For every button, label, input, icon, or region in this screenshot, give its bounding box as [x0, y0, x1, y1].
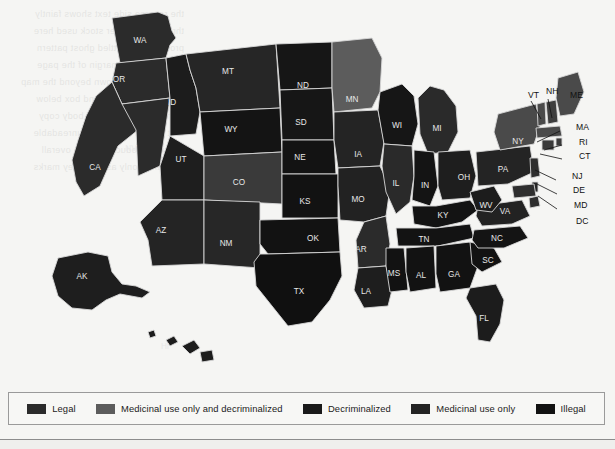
state-ar[interactable] [356, 216, 390, 268]
state-hi[interactable] [148, 330, 214, 362]
legend-swatch-decrim [303, 404, 322, 414]
page-root: the reverse side text shows faintly thro… [0, 0, 615, 449]
state-label-hi: HI [161, 342, 169, 351]
legend-item-illegal[interactable]: Illegal [536, 403, 586, 414]
state-label-wa: WA [134, 36, 147, 45]
state-label-wy: WY [224, 125, 238, 134]
state-ri[interactable] [556, 138, 562, 146]
state-label-id: ID [168, 98, 176, 107]
map-legend: LegalMedicinal use only and decriminaliz… [8, 392, 605, 425]
state-al[interactable] [406, 246, 436, 292]
state-ia[interactable] [334, 110, 384, 168]
state-label-vt: VT [528, 90, 540, 100]
state-wy[interactable] [200, 108, 282, 156]
state-label-nd: ND [297, 81, 309, 90]
state-label-dc: DC [576, 216, 588, 226]
state-label-mn: MN [346, 95, 359, 104]
state-label-ms: MS [388, 269, 401, 278]
legend-label-illegal: Illegal [561, 403, 586, 414]
state-label-md: MD [574, 200, 587, 210]
state-label-mo: MO [351, 195, 364, 204]
state-sd[interactable] [280, 88, 334, 140]
state-in[interactable] [412, 150, 438, 206]
state-label-de: DE [573, 185, 585, 195]
state-la[interactable] [354, 266, 392, 308]
state-label-nm: NM [220, 239, 233, 248]
state-label-az: AZ [156, 226, 166, 235]
state-label-wv: WV [479, 201, 493, 210]
state-label-nc: NC [491, 234, 503, 243]
state-label-il: IL [393, 179, 400, 188]
state-label-tx: TX [294, 287, 305, 296]
state-label-ri: RI [579, 137, 588, 147]
state-label-oh: OH [458, 173, 470, 182]
state-label-fl: FL [479, 314, 489, 323]
state-nm[interactable] [204, 200, 260, 268]
state-label-wi: WI [392, 121, 402, 130]
state-label-la: LA [361, 287, 372, 296]
legend-item-decrim[interactable]: Decriminalized [303, 403, 391, 414]
us-map[interactable]: WAORCANVIDMTWYUTCOAZNMNDSDNEKSOKTXMNIAMO… [0, 0, 615, 388]
state-label-sc: SC [482, 256, 493, 265]
state-label-ny: NY [512, 137, 524, 146]
state-label-ca: CA [89, 163, 101, 172]
state-label-nj: NJ [572, 171, 583, 181]
legend-label-legal: Legal [52, 403, 75, 414]
state-nh[interactable] [546, 100, 558, 124]
state-label-nh: NH [546, 86, 558, 96]
state-md[interactable] [512, 184, 536, 198]
legend-swatch-med_only [411, 404, 430, 414]
state-label-ut: UT [176, 155, 187, 164]
state-ok[interactable] [260, 218, 340, 254]
state-label-al: AL [416, 271, 426, 280]
state-mt[interactable] [186, 44, 280, 112]
state-label-ia: IA [354, 150, 362, 159]
state-ne[interactable] [282, 140, 336, 174]
state-label-mi: MI [432, 124, 441, 133]
legend-item-med_only[interactable]: Medicinal use only [411, 403, 515, 414]
state-label-ks: KS [300, 197, 311, 206]
state-label-co: CO [233, 178, 245, 187]
legend-item-med_decrim[interactable]: Medicinal use only and decriminalized [96, 403, 283, 414]
state-label-sd: SD [295, 118, 306, 127]
legend-swatch-legal [27, 404, 46, 414]
state-ut[interactable] [160, 136, 204, 200]
state-mo[interactable] [338, 166, 390, 222]
state-ak[interactable] [52, 252, 150, 310]
legend-label-decrim: Decriminalized [328, 403, 391, 414]
state-label-ky: KY [438, 211, 449, 220]
state-label-in: IN [421, 181, 429, 190]
footer-band [0, 440, 615, 449]
legend-label-med_decrim: Medicinal use only and decriminalized [121, 403, 283, 414]
state-label-nv: NV [125, 144, 137, 153]
state-label-ar: AR [355, 245, 366, 254]
state-label-ok: OK [307, 234, 319, 243]
state-dc[interactable] [529, 196, 540, 208]
state-label-or: OR [113, 75, 125, 84]
state-ks[interactable] [282, 174, 338, 218]
state-wi[interactable] [378, 84, 418, 146]
state-label-me: ME [570, 90, 583, 100]
state-fl[interactable] [466, 284, 504, 342]
state-label-ak: AK [77, 272, 88, 281]
state-label-ne: NE [294, 153, 306, 162]
state-label-tn: TN [419, 235, 430, 244]
state-label-va: VA [500, 207, 511, 216]
legend-item-legal[interactable]: Legal [27, 403, 75, 414]
state-mi[interactable] [418, 86, 458, 154]
state-nj[interactable] [530, 158, 540, 178]
us-map-svg[interactable]: WAORCANVIDMTWYUTCOAZNMNDSDNEKSOKTXMNIAMO… [0, 0, 615, 388]
state-label-ct: CT [579, 151, 591, 161]
legend-swatch-med_decrim [96, 404, 115, 414]
state-label-pa: PA [498, 165, 509, 174]
state-shapes[interactable] [52, 12, 584, 362]
legend-swatch-illegal [536, 404, 555, 414]
legend-label-med_only: Medicinal use only [436, 403, 515, 414]
state-label-ga: GA [448, 270, 460, 279]
state-az[interactable] [140, 200, 204, 266]
state-label-ma: MA [576, 122, 589, 132]
state-label-mt: MT [222, 67, 234, 76]
